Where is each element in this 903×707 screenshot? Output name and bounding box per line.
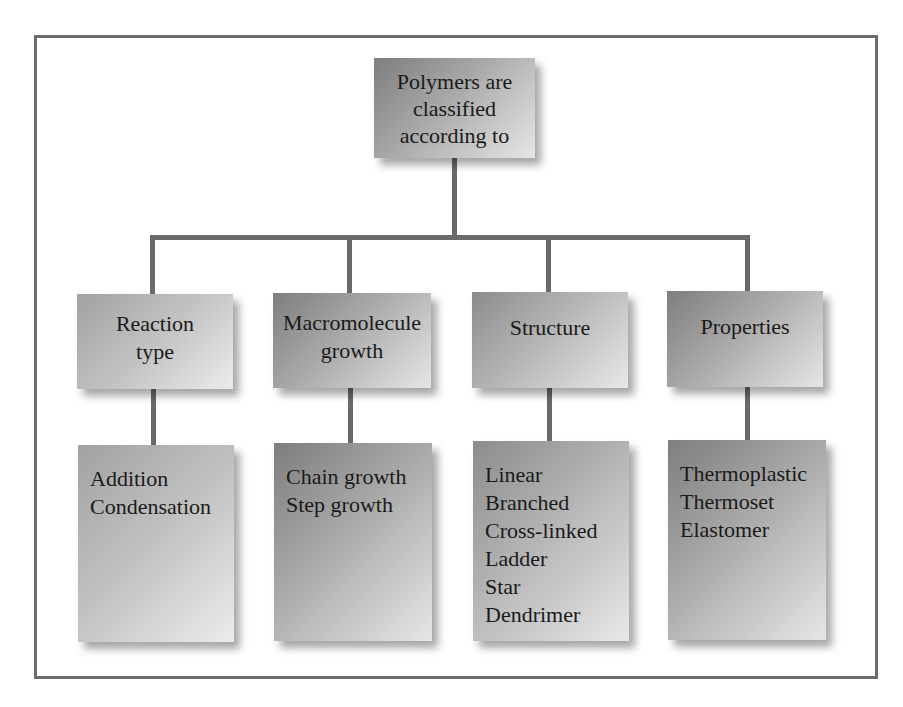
leaf-item: Dendrimer — [485, 601, 629, 629]
leaf-connector-reaction-type — [151, 388, 156, 446]
category-title-line: type — [136, 338, 174, 366]
leaf-connector-properties — [745, 386, 750, 444]
horizontal-bus-connector — [150, 235, 750, 240]
leaf-connector-structure — [547, 388, 552, 446]
leaf-item: Branched — [485, 489, 629, 517]
leaf-item: Elastomer — [680, 516, 826, 544]
category-node-structure: Structure — [472, 292, 628, 388]
root-label-line-1: Polymers are — [397, 68, 512, 95]
leaf-item: Thermoplastic — [680, 460, 826, 488]
category-title-line: Macromolecule — [283, 309, 421, 337]
category-title-line: Reaction — [116, 310, 194, 338]
leaf-item: Cross-linked — [485, 517, 629, 545]
drop-connector-properties — [745, 235, 750, 295]
leaf-item: Thermoset — [680, 488, 826, 516]
drop-connector-macromolecule-growth — [347, 235, 352, 295]
leaf-item: Step growth — [286, 491, 432, 519]
category-title-line: Structure — [510, 314, 591, 342]
leaf-node-properties: Thermoplastic Thermoset Elastomer — [668, 440, 826, 640]
root-label-line-3: according to — [400, 122, 509, 149]
root-stem-connector — [452, 158, 457, 240]
drop-connector-structure — [546, 235, 551, 295]
leaf-item: Chain growth — [286, 463, 432, 491]
leaf-node-macromolecule-growth: Chain growth Step growth — [274, 443, 432, 641]
leaf-node-reaction-type: Addition Condensation — [78, 445, 234, 642]
category-node-reaction-type: Reaction type — [77, 294, 233, 389]
root-label-line-2: classified — [413, 95, 496, 122]
root-node: Polymers are classified according to — [374, 58, 535, 158]
category-title-line: Properties — [700, 313, 789, 341]
leaf-node-structure: Linear Branched Cross-linked Ladder Star… — [473, 441, 629, 641]
category-node-properties: Properties — [667, 291, 823, 387]
leaf-item: Linear — [485, 461, 629, 489]
drop-connector-reaction-type — [150, 235, 155, 295]
leaf-item: Addition — [90, 465, 234, 493]
category-node-macromolecule-growth: Macromolecule growth — [273, 293, 431, 388]
leaf-item: Ladder — [485, 545, 629, 573]
category-title-line: growth — [321, 337, 383, 365]
leaf-item: Star — [485, 573, 629, 601]
leaf-item: Condensation — [90, 493, 234, 521]
leaf-connector-macromolecule-growth — [348, 388, 353, 446]
